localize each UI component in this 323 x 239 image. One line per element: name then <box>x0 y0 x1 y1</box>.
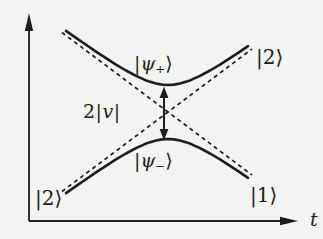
gap-letter: v <box>103 100 114 122</box>
psi-minus-letter: ψ <box>140 149 155 171</box>
ket-bar: | <box>35 186 42 210</box>
label-psi-minus: |ψ−⟩ <box>134 151 173 173</box>
ket-bar: | <box>256 45 263 69</box>
ket-number: 2 <box>42 186 55 210</box>
x-axis-arrowhead-icon <box>280 217 298 225</box>
ket-bracket: ⟩ <box>54 186 62 210</box>
ket-number: 2 <box>263 45 276 69</box>
y-axis-arrowhead-icon <box>25 13 33 31</box>
ket-bracket: ⟩ <box>269 183 277 207</box>
ket-number: 1 <box>257 183 270 207</box>
label-time-axis: t <box>310 210 318 229</box>
gap-right-bar: | <box>114 100 121 122</box>
gap-coefficient: 2 <box>83 100 96 122</box>
label-state-1-bottom-right: |1⟩ <box>250 185 277 205</box>
label-gap-2v: 2|v| <box>83 102 121 121</box>
gap-arrow-up-icon <box>160 87 169 99</box>
gap-left-bar: | <box>96 100 103 122</box>
label-state-2-top-right: |2⟩ <box>256 47 283 67</box>
psi-minus-ket: ⟩ <box>165 149 172 171</box>
label-state-2-bottom-left: |2⟩ <box>35 188 62 208</box>
avoided-crossing-diagram: |ψ+⟩ |ψ−⟩ 2|v| |2⟩ |1⟩ |2⟩ t <box>0 0 323 239</box>
label-psi-plus: |ψ+⟩ <box>134 54 173 76</box>
ket-bar: | <box>250 183 257 207</box>
ket-bracket: ⟩ <box>275 45 283 69</box>
psi-plus-ket: ⟩ <box>165 52 172 74</box>
psi-minus-subscript: − <box>155 159 165 173</box>
psi-plus-subscript: + <box>155 62 165 76</box>
psi-plus-letter: ψ <box>140 52 155 74</box>
